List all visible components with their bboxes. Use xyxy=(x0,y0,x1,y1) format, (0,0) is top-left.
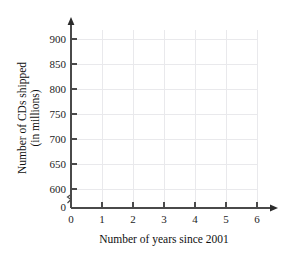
x-tick-label-2: 2 xyxy=(130,213,136,225)
x-tick-label-4: 4 xyxy=(192,213,198,225)
y-tick-label-600: 600 xyxy=(50,183,67,195)
x-tick-label-5: 5 xyxy=(223,213,229,225)
x-axis-title: Number of years since 2001 xyxy=(99,233,229,246)
y-tick-label-750: 750 xyxy=(50,108,67,120)
x-tick-label-3: 3 xyxy=(161,213,167,225)
x-tick-label-1: 1 xyxy=(99,213,105,225)
y-tick-label-850: 850 xyxy=(50,58,67,70)
y-axis-title-line1: Number of CDs shipped xyxy=(16,62,29,174)
y-tick-label-900: 900 xyxy=(50,33,67,45)
y-tick-label-800: 800 xyxy=(50,83,67,95)
y-axis-title-line2: (in millions) xyxy=(29,89,42,146)
x-tick-label-6: 6 xyxy=(254,213,260,225)
x-tick-label-0: 0 xyxy=(68,213,74,225)
y-tick-label-650: 650 xyxy=(50,158,67,170)
y-tick-label-0: 0 xyxy=(61,201,67,213)
y-tick-label-700: 700 xyxy=(50,133,67,145)
coordinate-grid-chart: 900 850 800 750 700 650 600 0 0 1 2 3 4 … xyxy=(0,0,296,261)
chart-container: 900 850 800 750 700 650 600 0 0 1 2 3 4 … xyxy=(0,0,296,261)
